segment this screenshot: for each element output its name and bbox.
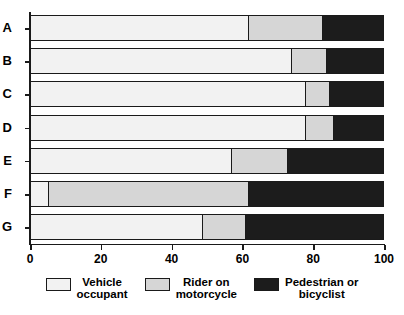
y-axis-tick-label: A bbox=[0, 21, 12, 34]
bar-segment bbox=[288, 149, 383, 173]
legend-entry: Rider on motorcycle bbox=[145, 276, 237, 300]
legend-label: Vehicle occupant bbox=[77, 276, 128, 300]
y-axis-tick-label: B bbox=[0, 54, 12, 67]
bar-segment bbox=[327, 49, 383, 73]
y-axis-tick-label: D bbox=[0, 121, 12, 134]
bar-segment bbox=[31, 82, 306, 106]
x-axis-tick-label: 80 bbox=[293, 253, 333, 265]
bar-segment bbox=[334, 116, 383, 140]
y-tick-mark bbox=[25, 227, 30, 229]
bar-segment bbox=[323, 16, 383, 40]
bar-segment bbox=[203, 215, 245, 239]
stacked-bar-b bbox=[30, 48, 384, 74]
bar-segment bbox=[246, 215, 383, 239]
legend-label: Rider on motorcycle bbox=[176, 276, 237, 300]
y-tick-mark bbox=[25, 61, 30, 63]
x-axis-tick-label: 100 bbox=[364, 253, 404, 265]
bar-segment bbox=[31, 16, 249, 40]
bar-row bbox=[30, 48, 384, 74]
y-tick-mark bbox=[25, 161, 30, 163]
y-axis-tick-label: C bbox=[0, 87, 12, 100]
bar-segment bbox=[31, 215, 203, 239]
bar-row bbox=[30, 148, 384, 174]
legend-swatch bbox=[254, 278, 279, 291]
stacked-bar-a bbox=[30, 15, 384, 41]
legend-entry: Vehicle occupant bbox=[46, 276, 128, 300]
x-tick-mark bbox=[313, 245, 315, 250]
x-tick-mark bbox=[30, 245, 32, 250]
bar-row bbox=[30, 115, 384, 141]
bar-row bbox=[30, 214, 384, 240]
stacked-bar-e bbox=[30, 148, 384, 174]
bar-segment bbox=[330, 82, 383, 106]
plot-area: 020406080100 bbox=[30, 12, 384, 245]
y-axis-tick-label: G bbox=[0, 220, 12, 233]
legend-entry: Pedestrian or bicyclist bbox=[254, 276, 359, 300]
x-axis-tick-label: 60 bbox=[222, 253, 262, 265]
chart-legend: Vehicle occupantRider on motorcyclePedes… bbox=[0, 276, 404, 300]
x-tick-mark bbox=[101, 245, 103, 250]
x-axis-tick-label: 40 bbox=[152, 253, 192, 265]
y-tick-mark bbox=[25, 94, 30, 96]
y-tick-mark bbox=[25, 28, 30, 30]
legend-swatch bbox=[145, 278, 170, 291]
bar-segment bbox=[306, 82, 331, 106]
bar-segment bbox=[249, 182, 383, 206]
bar-segment bbox=[232, 149, 288, 173]
x-axis-tick-label: 20 bbox=[81, 253, 121, 265]
stacked-bar-d bbox=[30, 115, 384, 141]
stacked-bar-g bbox=[30, 214, 384, 240]
stacked-bar-f bbox=[30, 181, 384, 207]
bar-segment bbox=[292, 49, 327, 73]
y-axis-tick-label: E bbox=[0, 154, 12, 167]
stacked-bar-c bbox=[30, 81, 384, 107]
x-axis-tick-label: 0 bbox=[10, 253, 50, 265]
bar-segment bbox=[31, 149, 232, 173]
x-tick-mark bbox=[172, 245, 174, 250]
bar-segment bbox=[31, 116, 306, 140]
legend-label: Pedestrian or bicyclist bbox=[285, 276, 359, 300]
bar-segment bbox=[49, 182, 250, 206]
legend-swatch bbox=[46, 278, 71, 291]
bar-segment bbox=[31, 49, 292, 73]
stacked-bar-chart: 020406080100 ABCDEFG Vehicle occupantRid… bbox=[0, 0, 404, 315]
x-tick-mark bbox=[242, 245, 244, 250]
bar-segment bbox=[249, 16, 323, 40]
x-tick-mark bbox=[384, 245, 386, 250]
bar-segment bbox=[31, 182, 49, 206]
bar-row bbox=[30, 81, 384, 107]
y-axis-tick-label: F bbox=[0, 187, 12, 200]
x-axis-line bbox=[29, 244, 385, 246]
y-tick-mark bbox=[25, 194, 30, 196]
bar-segment bbox=[306, 116, 334, 140]
y-tick-mark bbox=[25, 128, 30, 130]
bar-row bbox=[30, 181, 384, 207]
bar-row bbox=[30, 15, 384, 41]
